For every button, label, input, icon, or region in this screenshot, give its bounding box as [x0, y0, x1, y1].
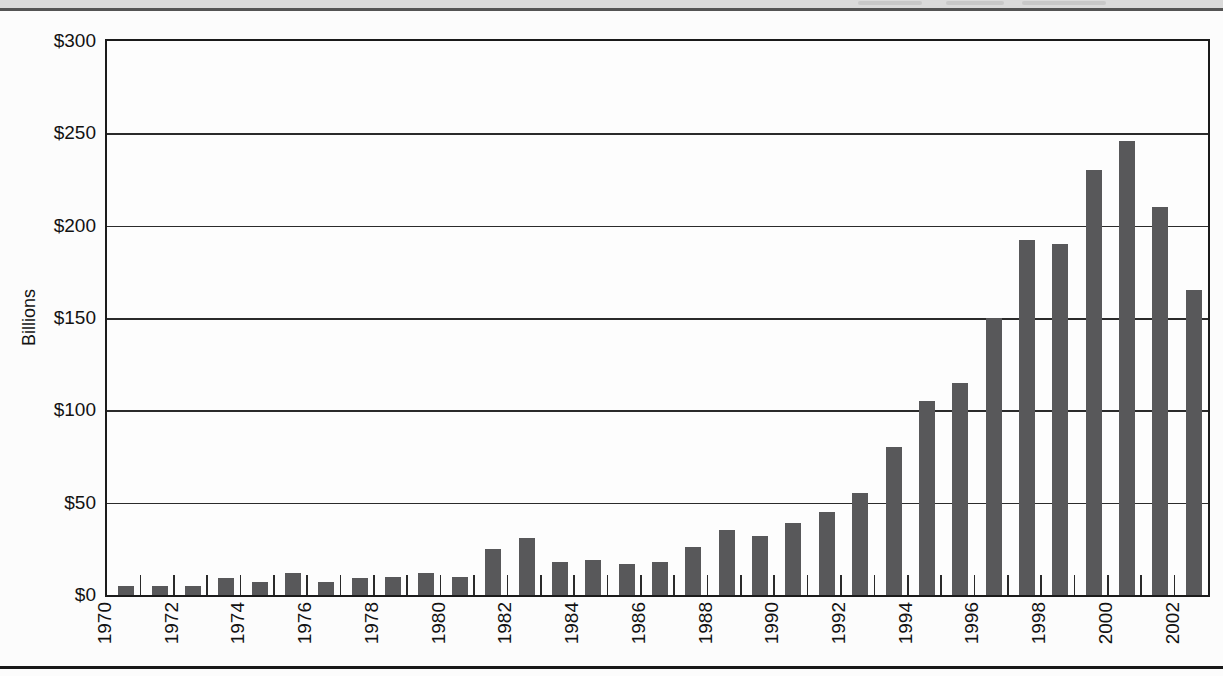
- x-axis-tick-label: 1990: [762, 602, 782, 644]
- x-axis-tick: [273, 575, 275, 595]
- bar-1987: [685, 547, 701, 595]
- bar-1984: [585, 560, 601, 595]
- bar-2001: [1152, 207, 1168, 595]
- x-axis-tick: [1174, 575, 1176, 595]
- bar-1970: [118, 586, 134, 595]
- x-axis-tick: [907, 575, 909, 595]
- x-axis-tick-label: 1972: [162, 602, 182, 644]
- header-rule: [0, 8, 1223, 11]
- x-axis-tick-label: 1992: [829, 602, 849, 644]
- x-axis-tick-label: 1996: [962, 602, 982, 644]
- bar-1988: [719, 530, 735, 595]
- x-axis-tick: [640, 575, 642, 595]
- y-axis-tick-label: $150: [0, 307, 96, 329]
- bar-2002: [1186, 290, 1202, 595]
- x-axis-tick: [874, 575, 876, 595]
- bar-2000: [1119, 141, 1135, 595]
- x-axis-tick: [807, 575, 809, 595]
- cropped-header-text-remnant: [946, 1, 1004, 5]
- bar-1997: [1019, 240, 1035, 595]
- y-axis-tick-label: $50: [0, 492, 96, 514]
- bar-1995: [952, 383, 968, 595]
- gridline-250: [107, 133, 1208, 135]
- bar-1972: [185, 586, 201, 595]
- bar-1993: [886, 447, 902, 595]
- x-axis-tick: [673, 575, 675, 595]
- bar-1975: [285, 573, 301, 595]
- x-axis-tick: [1140, 575, 1142, 595]
- x-axis-tick: [240, 575, 242, 595]
- gridline-50: [107, 503, 1208, 505]
- bar-1989: [752, 536, 768, 595]
- bar-1985: [619, 564, 635, 595]
- bar-1977: [352, 578, 368, 595]
- y-axis-tick-label: $0: [0, 584, 96, 606]
- x-axis-tick: [440, 575, 442, 595]
- x-axis-tick-label: 1988: [696, 602, 716, 644]
- x-axis-tick: [306, 575, 308, 595]
- bar-1996: [986, 318, 1002, 595]
- gridline-200: [107, 226, 1208, 228]
- x-axis-tick-label: 1970: [95, 602, 115, 644]
- x-axis-tick-label: 1980: [429, 602, 449, 644]
- bar-1976: [318, 582, 334, 595]
- x-axis-tick-label: 1986: [629, 602, 649, 644]
- x-axis-tick: [540, 575, 542, 595]
- bar-1980: [452, 577, 468, 595]
- x-axis-tick-label: 1978: [362, 602, 382, 644]
- bar-1983: [552, 562, 568, 595]
- x-axis-tick: [974, 575, 976, 595]
- gridline-150: [107, 318, 1208, 320]
- x-axis-tick: [607, 575, 609, 595]
- bar-1992: [852, 493, 868, 595]
- bar-1978: [385, 577, 401, 595]
- x-axis-tick: [206, 575, 208, 595]
- x-axis-tick: [340, 575, 342, 595]
- bar-1998: [1052, 244, 1068, 595]
- x-axis-tick-label: 1998: [1029, 602, 1049, 644]
- header-band: [0, 0, 1223, 8]
- bar-1982: [519, 538, 535, 595]
- x-axis-tick-label: 1994: [896, 602, 916, 644]
- y-axis-tick-label: $200: [0, 215, 96, 237]
- x-axis-tick: [1040, 575, 1042, 595]
- plot-area: [105, 39, 1210, 597]
- x-axis-tick: [707, 575, 709, 595]
- x-axis-tick: [773, 575, 775, 595]
- bar-1990: [785, 523, 801, 595]
- bar-1994: [919, 401, 935, 595]
- x-axis-tick: [740, 575, 742, 595]
- footer-rule: [0, 666, 1223, 669]
- page: { "page": { "background_color": "#fcfcfc…: [0, 0, 1223, 676]
- x-axis-tick: [940, 575, 942, 595]
- x-axis-tick: [507, 575, 509, 595]
- bar-1999: [1086, 170, 1102, 595]
- bar-1986: [652, 562, 668, 595]
- x-axis-tick: [373, 575, 375, 595]
- bar-1974: [252, 582, 268, 595]
- x-axis-tick: [406, 575, 408, 595]
- x-axis-tick-label: 1974: [228, 602, 248, 644]
- y-axis-tick-label: $300: [0, 30, 96, 52]
- cropped-header-text-remnant: [858, 1, 922, 5]
- x-axis-tick-label: 2000: [1096, 602, 1116, 644]
- x-axis-tick-label: 1984: [562, 602, 582, 644]
- x-axis-tick: [1007, 575, 1009, 595]
- x-axis-tick: [140, 575, 142, 595]
- x-axis-tick-label: 2002: [1163, 602, 1183, 644]
- bar-1973: [218, 578, 234, 595]
- bar-1971: [152, 586, 168, 595]
- x-axis-tick-label: 1976: [295, 602, 315, 644]
- bar-1979: [418, 573, 434, 595]
- x-axis-tick-label: 1982: [495, 602, 515, 644]
- x-axis-tick: [473, 575, 475, 595]
- bar-1991: [819, 512, 835, 595]
- x-axis-tick: [1107, 575, 1109, 595]
- x-axis-tick: [173, 575, 175, 595]
- y-axis-tick-label: $250: [0, 122, 96, 144]
- x-axis-tick: [573, 575, 575, 595]
- gridline-100: [107, 410, 1208, 412]
- x-axis-tick: [840, 575, 842, 595]
- bar-1981: [485, 549, 501, 595]
- y-axis-tick-label: $100: [0, 399, 96, 421]
